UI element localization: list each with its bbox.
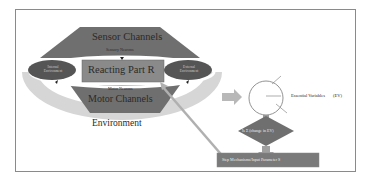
environment-label: Environment	[92, 118, 142, 128]
step-box-label: Step Mechanisms/Input Parameter S	[222, 157, 280, 162]
motor-neurons-label: Motor Neurons	[108, 86, 133, 91]
ev-abbrev-label: (EV)	[333, 93, 342, 98]
reacting-part-label: Reacting Part R	[88, 64, 155, 75]
sensor-neurons-label: Sensory Neurons	[106, 47, 133, 52]
sensor-channels-label: Sensor Channels	[92, 31, 162, 42]
right-arrow	[222, 89, 242, 105]
decision-label: Is Σ (change in EV)	[242, 128, 274, 133]
left-ellipse-label: Internal Environment	[38, 65, 68, 73]
ev-circle	[249, 81, 283, 115]
right-ellipse-label: External Environment	[174, 65, 204, 73]
essential-variables-label: Essential Variables	[291, 93, 325, 98]
motor-channels-label: Motor Channels	[88, 93, 153, 104]
